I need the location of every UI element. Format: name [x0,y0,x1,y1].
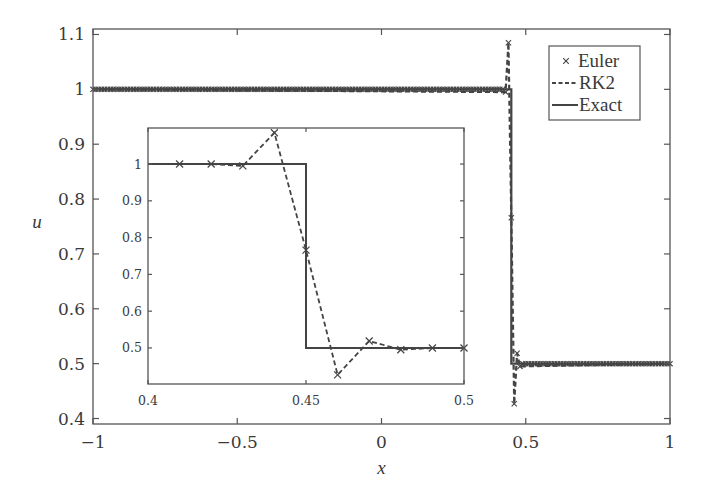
inset-x-tick-label: 0.45 [292,393,320,408]
y-tick-label: 0.4 [58,409,85,429]
y-tick-label: 0.5 [58,354,85,374]
y-tick-label: 1 [74,79,85,99]
y-tick-label: 0.7 [58,244,85,264]
inset-y-tick-label: 0.8 [122,230,142,245]
x-axis-label: x [376,457,386,478]
x-tick-label: 1 [665,432,676,452]
inset-y-tick-label: 1 [134,157,142,172]
y-tick-label: 0.8 [58,189,85,209]
x-tick-label: −0.5 [217,432,258,452]
legend-label: RK2 [579,72,615,93]
inset-plot: 0.40.450.50.50.60.70.80.91 [122,128,474,408]
inset-y-tick-label: 0.6 [122,304,142,319]
inset-y-tick-label: 0.7 [122,267,142,282]
y-tick-label: 1.1 [58,24,85,44]
inset-y-tick-label: 0.9 [122,193,142,208]
chart-svg: −1−0.500.510.40.50.60.70.80.911.1 x u 0.… [0,0,704,498]
y-tick-label: 0.6 [58,299,85,319]
inset-x-tick-label: 0.4 [138,393,158,408]
x-tick-label: −1 [80,432,105,452]
legend-label: Euler [578,50,620,71]
inset-x-tick-label: 0.5 [454,393,474,408]
legend: EulerRK2Exact [549,46,640,120]
inset-y-tick-label: 0.5 [122,340,142,355]
legend-label: Exact [579,94,623,115]
y-tick-label: 0.9 [58,134,85,154]
y-axis-label: u [32,211,42,232]
x-tick-label: 0.5 [512,432,539,452]
x-tick-label: 0 [376,432,387,452]
